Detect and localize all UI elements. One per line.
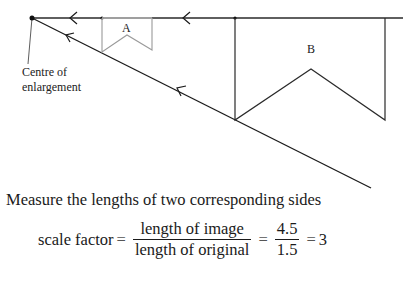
formula-result: 3: [319, 230, 327, 250]
shape-a-label: A: [122, 22, 131, 34]
fraction-numerator: length of image: [138, 220, 246, 239]
centre-point: [30, 16, 35, 21]
equals-sign: =: [117, 230, 126, 250]
equals-sign: =: [306, 230, 315, 250]
diagonal-ray-line: [32, 18, 371, 188]
fraction-denominator: 1.5: [275, 239, 300, 259]
shape-b-outline: [235, 18, 385, 120]
fraction-numerator: 4.5: [275, 220, 300, 239]
formula-lhs: scale factor: [38, 230, 114, 250]
enlargement-diagram: [0, 0, 410, 200]
centre-of-enlargement-label: Centre of enlargement: [22, 65, 81, 95]
centre-label-line1: Centre of: [22, 65, 81, 80]
fraction-definition: length of image length of original: [133, 220, 252, 259]
scale-factor-formula: scale factor = length of image length of…: [38, 220, 327, 259]
fraction-denominator: length of original: [133, 239, 252, 259]
centre-pointer-line: [28, 18, 32, 64]
shape-b-label: B: [307, 43, 315, 55]
fraction-values: 4.5 1.5: [275, 220, 300, 259]
equals-sign: =: [258, 230, 267, 250]
instruction-text: Measure the lengths of two corresponding…: [6, 190, 321, 210]
centre-label-line2: enlargement: [22, 80, 81, 95]
